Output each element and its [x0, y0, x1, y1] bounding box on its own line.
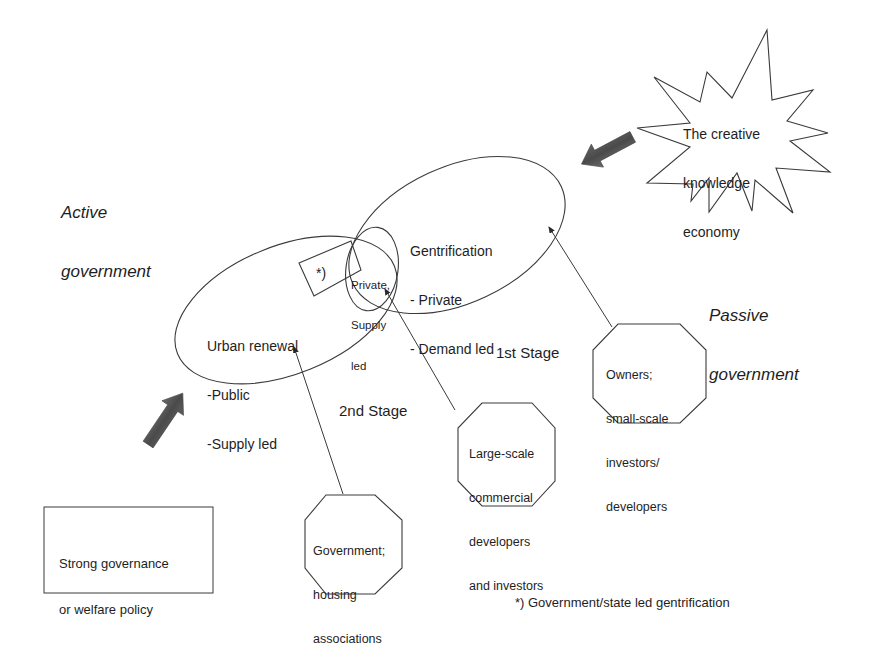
stage-1-label: 1st Stage — [496, 344, 559, 362]
creative-economy-label: The creative knowledge economy — [683, 93, 760, 257]
creative-economy-arrow — [575, 125, 638, 175]
active-government-label: Active government — [61, 163, 151, 302]
owners-label: Owners; small-scale investors/ developer… — [606, 339, 669, 529]
passive-government-label: Passive government — [709, 266, 799, 405]
gentrification-label: Gentrification - Private - Demand led — [410, 210, 494, 374]
strong-governance-label: Strong governance or welfare policy — [59, 526, 169, 632]
footnote: *) Government/state led gentrification — [515, 595, 730, 610]
government-housing-label: Government; housing associations — [313, 515, 385, 647]
large-scale-label: Large-scale commercial developers and in… — [469, 418, 543, 608]
owners-connector-arrow — [549, 227, 612, 327]
government-connector-arrow — [294, 347, 343, 494]
urban-renewal-label: Urban renewal -Public -Supply led — [207, 305, 298, 469]
stage-2-label: 2nd Stage — [339, 402, 407, 420]
state-led-marker: *) — [316, 265, 326, 281]
private-supply-led-label: Private, Supply led — [351, 252, 390, 387]
strong-governance-arrow — [137, 386, 193, 452]
